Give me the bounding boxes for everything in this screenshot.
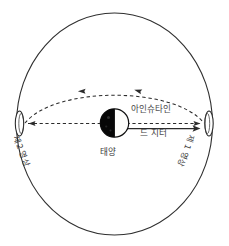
- label-einstein: 아인슈타인: [131, 105, 171, 114]
- diagram-canvas: [0, 0, 229, 246]
- label-sun: 태양: [100, 148, 116, 157]
- label-de-sitter: 드 지터: [140, 129, 167, 138]
- lensing-diagram: 아인슈타인 드 지터 태양 제2 영상 제 1 영상: [0, 0, 229, 246]
- sun-half-lit-disc: [100, 109, 128, 137]
